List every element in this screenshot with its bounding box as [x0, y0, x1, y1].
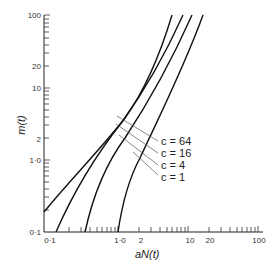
x-ticks	[69, 226, 258, 232]
x-tick-label: 1·0	[114, 236, 126, 245]
x-tick-label: 10	[186, 236, 195, 245]
label-c-16: c = 16	[161, 147, 191, 159]
chart: 100 20 10 2 1·0 0·1 0·1 1·0 2 10 20 100 …	[0, 0, 277, 271]
y-axis-title: m(t)	[15, 115, 27, 135]
x-tick-label: 100	[252, 236, 266, 245]
curves	[44, 15, 203, 232]
label-c-4: c = 4	[161, 159, 185, 171]
curve-c-64	[44, 15, 172, 212]
y-tick-label: 10	[32, 84, 41, 93]
y-tick-labels: 100 20 10 2 1·0 0·1	[28, 11, 42, 237]
y-tick-label: 2	[37, 135, 42, 144]
x-tick-labels: 0·1 1·0 2 10 20 100	[44, 236, 266, 245]
y-tick-label: 1·0	[29, 156, 41, 165]
y-tick-label: 100	[28, 11, 42, 20]
label-leaders	[116, 116, 158, 175]
x-tick-label: 0·1	[44, 236, 56, 245]
curve-c-16	[56, 15, 183, 232]
x-tick-label: 20	[206, 236, 215, 245]
x-tick-label: 2	[139, 236, 144, 245]
curve-c-4	[85, 15, 192, 232]
y-tick-label: 20	[32, 62, 41, 71]
label-c-64: c = 64	[161, 135, 191, 147]
curve-labels: c = 64 c = 16 c = 4 c = 1	[161, 135, 191, 183]
x-axis-title: aN(t)	[135, 248, 160, 260]
y-ticks	[44, 15, 50, 210]
label-c-1: c = 1	[161, 171, 185, 183]
y-tick-label: 0·1	[29, 228, 41, 237]
